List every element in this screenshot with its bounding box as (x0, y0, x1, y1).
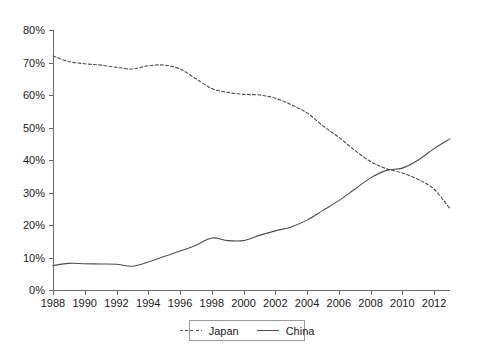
legend-swatch-japan-dashed-icon (180, 330, 202, 331)
legend-label-japan: Japan (209, 325, 239, 337)
legend-entry-china: China (248, 325, 324, 337)
series-line-japan (53, 56, 450, 209)
legend-label-china: China (286, 325, 315, 337)
chart-legend: Japan China (189, 320, 305, 341)
chart-container: 0%10%20%30%40%50%60%70%80% 1988199019921… (0, 0, 487, 357)
legend-entry-japan: Japan (171, 325, 248, 337)
series-line-china (53, 139, 450, 266)
plot-area (0, 0, 487, 357)
legend-swatch-china-solid-icon (257, 330, 279, 331)
